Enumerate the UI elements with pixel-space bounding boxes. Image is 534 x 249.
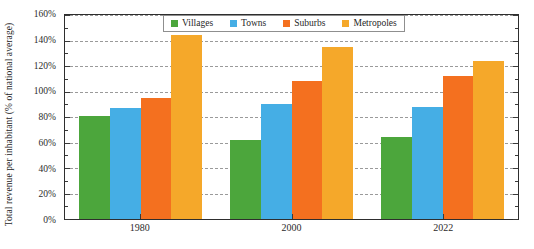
y-axis-tick-label: 40% (39, 164, 56, 174)
x-axis-tick-mark (140, 214, 141, 219)
bar-group (216, 15, 367, 219)
legend-swatch-icon (342, 20, 349, 27)
y-axis-tick-label: 0% (43, 215, 56, 225)
y-axis-tick-label: 160% (34, 9, 56, 19)
legend-label: Towns (241, 18, 266, 28)
legend-swatch-icon (230, 20, 237, 27)
bar-metropoles-1980[interactable] (171, 35, 202, 219)
bar-towns-2000[interactable] (261, 104, 292, 219)
y-axis-tick-label: 140% (34, 35, 56, 45)
y-axis-tick-labels: 0%20%40%60%80%100%120%140%160% (18, 14, 60, 220)
legend-label: Suburbs (294, 18, 325, 28)
bar-suburbs-1980[interactable] (141, 98, 172, 219)
bar-villages-2022[interactable] (381, 137, 412, 219)
bar-group (367, 15, 518, 219)
legend-item-villages[interactable]: Villages (171, 18, 213, 28)
y-axis-tick-label: 60% (39, 138, 56, 148)
plot-area (64, 14, 519, 220)
bar-towns-2022[interactable] (412, 107, 443, 219)
y-axis-tick-mark (65, 219, 70, 220)
legend-label: Villages (182, 18, 213, 28)
legend-item-metropoles[interactable]: Metropoles (342, 18, 396, 28)
plot-inner (65, 15, 518, 219)
bar-chart: Total revenue per inhabitant (% of natio… (0, 0, 534, 249)
y-axis-tick-label: 120% (34, 61, 56, 71)
legend-label: Metropoles (353, 18, 396, 28)
x-axis-tick-mark (443, 214, 444, 219)
x-axis-tick-labels: 198020002022 (64, 222, 519, 233)
bar-villages-1980[interactable] (79, 116, 110, 219)
y-axis-tick-label: 20% (39, 189, 56, 199)
bar-suburbs-2022[interactable] (443, 76, 474, 219)
bar-villages-2000[interactable] (230, 140, 261, 219)
bar-suburbs-2000[interactable] (292, 81, 323, 219)
x-axis-tick-label: 2000 (216, 222, 368, 233)
x-axis-tick-label: 2022 (367, 222, 519, 233)
bar-metropoles-2000[interactable] (322, 47, 353, 219)
y-axis-tick-label: 100% (34, 86, 56, 96)
bar-towns-1980[interactable] (110, 108, 141, 219)
y-axis-title: Total revenue per inhabitant (% of natio… (0, 0, 18, 249)
legend-swatch-icon (283, 20, 290, 27)
legend-item-towns[interactable]: Towns (230, 18, 266, 28)
y-axis-tick-mark (513, 219, 518, 220)
y-axis-tick-label: 80% (39, 112, 56, 122)
bar-groups (65, 15, 518, 219)
bar-metropoles-2022[interactable] (473, 61, 504, 219)
legend-item-suburbs[interactable]: Suburbs (283, 18, 325, 28)
x-axis-tick-label: 1980 (64, 222, 216, 233)
legend-swatch-icon (171, 20, 178, 27)
bar-group (65, 15, 216, 219)
x-axis-tick-mark (292, 214, 293, 219)
chart-legend: VillagesTownsSuburbsMetropoles (163, 15, 405, 32)
